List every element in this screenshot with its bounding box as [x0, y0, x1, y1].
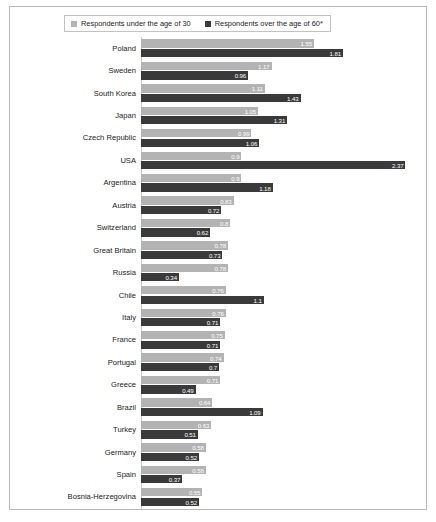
bar-value-label: 0.74	[210, 354, 221, 361]
bar-group: 0.91.18	[141, 172, 426, 194]
category-label: Czech Republic	[10, 133, 141, 142]
category-label: Italy	[10, 313, 141, 322]
bar-over60: 0.52	[141, 453, 199, 461]
bar-under30: 0.9	[141, 174, 241, 182]
bar-value-label: 0.64	[199, 399, 210, 406]
bar-under30: 0.76	[141, 286, 226, 294]
bar-value-label: 1.81	[330, 49, 341, 56]
bar-value-label: 0.72	[208, 207, 219, 214]
bar-group: 0.780.73	[141, 239, 426, 261]
category-label: Great Britain	[10, 246, 141, 255]
bar-over60: 0.7	[141, 363, 219, 371]
legend-label-under30: Respondents under the age of 30	[81, 19, 191, 28]
chart-row: Great Britain0.780.73	[10, 239, 426, 261]
bar-under30: 1.17	[141, 62, 272, 70]
chart-row: Chile0.761.1	[10, 284, 426, 306]
bar-value-label: 0.49	[182, 386, 193, 393]
bar-over60: 0.72	[141, 206, 221, 214]
bar-value-label: 0.78	[215, 242, 226, 249]
bar-group: 0.750.71	[141, 329, 426, 351]
bar-over60: 1.09	[141, 408, 263, 416]
bar-group: 1.551.81	[141, 37, 426, 59]
bar-value-label: 0.58	[192, 466, 203, 473]
chart-row: Sweden1.170.96	[10, 59, 426, 81]
bar-over60: 0.52	[141, 498, 199, 506]
category-label: Austria	[10, 201, 141, 210]
category-label: South Korea	[10, 89, 141, 98]
legend-label-over60: Respondents over the age of 60*	[215, 19, 323, 28]
bar-over60: 1.31	[141, 116, 287, 124]
bar-under30: 0.78	[141, 241, 228, 249]
chart-row: Bosnia-Herzegovina0.550.52	[10, 486, 426, 508]
bar-value-label: 1.1	[254, 296, 262, 303]
legend-item-under30: Respondents under the age of 30	[71, 19, 191, 28]
bar-under30: 1.05	[141, 107, 258, 115]
chart-row: Japan1.051.31	[10, 104, 426, 126]
bar-under30: 0.63	[141, 421, 211, 429]
bar-group: 0.630.51	[141, 418, 426, 440]
bar-value-label: 0.7	[209, 364, 217, 371]
chart-row: Austria0.830.72	[10, 194, 426, 216]
bar-over60: 0.71	[141, 318, 220, 326]
bar-under30: 0.9	[141, 152, 241, 160]
bar-under30: 0.76	[141, 309, 226, 317]
bar-under30: 0.58	[141, 443, 206, 451]
chart-row: Poland1.551.81	[10, 37, 426, 59]
bar-value-label: 0.78	[215, 264, 226, 271]
bar-group: 0.780.34	[141, 261, 426, 283]
bar-value-label: 1.11	[252, 85, 263, 92]
bar-over60: 0.49	[141, 385, 196, 393]
bar-value-label: 0.75	[211, 332, 222, 339]
bar-value-label: 1.43	[287, 94, 298, 101]
chart-row: Spain0.580.37	[10, 463, 426, 485]
bar-over60: 0.34	[141, 273, 179, 281]
chart-row: Germany0.580.52	[10, 441, 426, 463]
bar-group: 0.761.1	[141, 284, 426, 306]
chart-row: Brazil0.641.09	[10, 396, 426, 418]
bar-value-label: 0.73	[209, 251, 220, 258]
bar-value-label: 0.8	[220, 219, 228, 226]
bar-group: 0.991.06	[141, 127, 426, 149]
bar-under30: 1.55	[141, 39, 314, 47]
legend-swatch-under30	[71, 21, 77, 27]
category-label: Russia	[10, 268, 141, 277]
bar-value-label: 0.62	[197, 229, 208, 236]
category-label: Sweden	[10, 66, 141, 75]
bar-over60: 1.18	[141, 183, 273, 191]
category-label: Switzerland	[10, 223, 141, 232]
chart-legend: Respondents under the age of 30 Responde…	[64, 15, 331, 32]
bar-group: 1.111.43	[141, 82, 426, 104]
bar-over60: 1.1	[141, 296, 264, 304]
bar-value-label: 0.63	[198, 421, 209, 428]
bar-value-label: 1.31	[274, 117, 285, 124]
bar-group: 0.550.52	[141, 486, 426, 508]
bar-group: 0.740.7	[141, 351, 426, 373]
bar-value-label: 0.96	[235, 72, 246, 79]
bar-value-label: 0.51	[184, 431, 195, 438]
bar-value-label: 0.37	[169, 476, 180, 483]
bar-value-label: 1.55	[301, 40, 312, 47]
category-label: Bosnia-Herzegovina	[10, 492, 141, 501]
bar-under30: 1.11	[141, 84, 265, 92]
chart-row: Portugal0.740.7	[10, 351, 426, 373]
bar-under30: 0.99	[141, 129, 251, 137]
category-label: Poland	[10, 44, 141, 53]
bar-value-label: 0.9	[231, 175, 239, 182]
bar-group: 0.830.72	[141, 194, 426, 216]
chart-row: USA0.92.37	[10, 149, 426, 171]
chart-frame: Respondents under the age of 30 Responde…	[9, 6, 427, 510]
bar-group: 0.80.62	[141, 217, 426, 239]
bar-value-label: 0.58	[192, 444, 203, 451]
bar-over60: 0.37	[141, 475, 182, 483]
category-label: Argentina	[10, 178, 141, 187]
category-label: Japan	[10, 111, 141, 120]
bar-over60: 0.51	[141, 430, 198, 438]
bar-value-label: 2.37	[392, 162, 403, 169]
bar-under30: 0.55	[141, 488, 202, 496]
bar-over60: 0.96	[141, 71, 248, 79]
bar-under30: 0.71	[141, 376, 220, 384]
bar-over60: 2.37	[141, 161, 405, 169]
bar-value-label: 1.17	[258, 62, 269, 69]
bar-value-label: 0.83	[220, 197, 231, 204]
bar-value-label: 0.34	[165, 274, 176, 281]
